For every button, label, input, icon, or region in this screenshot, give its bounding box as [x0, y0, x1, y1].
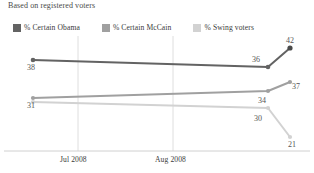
- data-label-obama-end: 42: [286, 36, 294, 45]
- data-point-mccain-1[interactable]: [266, 89, 270, 93]
- data-point-swing-1[interactable]: [266, 106, 270, 110]
- data-label-swing-end: 21: [288, 140, 296, 149]
- data-label-obama-start: 38: [27, 63, 35, 72]
- series-line-swing[interactable]: [33, 102, 290, 137]
- legend-swatch-obama: [13, 24, 21, 32]
- legend-label-swing: % Swing voters: [204, 23, 254, 32]
- data-label-mccain-start: 31: [27, 101, 35, 110]
- legend-label-obama: % Certain Obama: [24, 23, 80, 32]
- data-label-mccain-end: 37: [292, 82, 300, 91]
- chart-figure: Based on registered voters % Certain Oba…: [0, 0, 314, 173]
- legend-swatch-swing: [193, 24, 201, 32]
- xtick-label-jul-2008: Jul 2008: [60, 155, 87, 164]
- data-point-obama-0[interactable]: [31, 58, 36, 63]
- data-label-swing-mid: 30: [254, 114, 262, 123]
- xtick-label-aug-2008: Aug 2008: [155, 155, 186, 164]
- chart-subtitle: Based on registered voters: [8, 1, 95, 10]
- legend-swatch-mccain: [102, 24, 110, 32]
- series-line-mccain[interactable]: [33, 82, 290, 98]
- data-label-mccain-mid: 34: [258, 96, 266, 105]
- data-point-swing-2[interactable]: [288, 135, 292, 139]
- legend-item-mccain[interactable]: % Certain McCain: [102, 17, 172, 35]
- plot-area: 38 36 42 31 34 37 30 21 Jul 2008 Aug 200…: [0, 34, 314, 173]
- legend-label-mccain: % Certain McCain: [113, 23, 172, 32]
- data-point-obama-1[interactable]: [266, 65, 271, 70]
- chart-legend: % Certain Obama % Certain McCain % Swing…: [13, 16, 254, 28]
- data-point-obama-2[interactable]: [287, 45, 292, 50]
- data-label-obama-mid: 36: [252, 55, 260, 64]
- legend-item-obama[interactable]: % Certain Obama: [13, 17, 80, 35]
- legend-item-swing[interactable]: % Swing voters: [193, 17, 254, 35]
- chart-svg: [0, 34, 314, 173]
- data-point-mccain-0[interactable]: [31, 96, 35, 100]
